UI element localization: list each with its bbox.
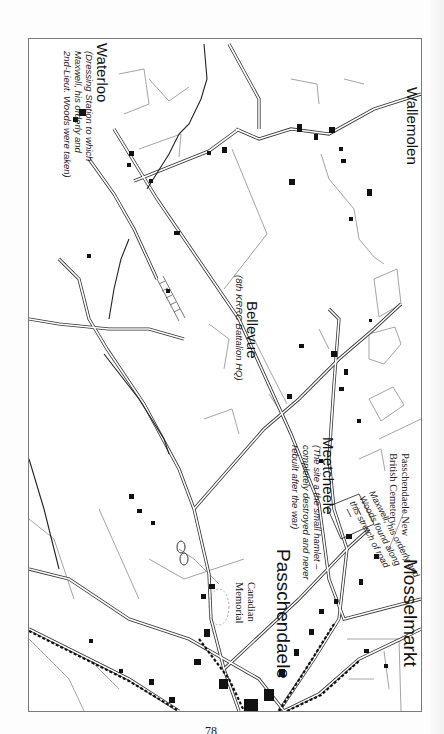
place-label-passchendaele: Passchendaele (272, 549, 294, 679)
place-label-bellevue: Bellevue (244, 301, 261, 359)
book-page: Wallemolen Waterloo (Dressing Station to… (0, 0, 444, 734)
waterloo-note: (Dressing Station to which Maxwell, his … (62, 51, 95, 178)
meetcheele-note: (The site a the small hamlet – completel… (290, 445, 323, 580)
bellevue-note: (8th KRRC Battalion HQ) (234, 275, 245, 381)
page-number: 78 (205, 724, 217, 734)
place-label-wallemolen: Wallemolen (404, 87, 421, 165)
page-edge (430, 0, 444, 734)
place-label-waterloo: Waterloo (94, 43, 111, 102)
map-frame: Wallemolen Waterloo (Dressing Station to… (28, 38, 422, 712)
memorial-label: Canadian Memorial (233, 582, 257, 623)
